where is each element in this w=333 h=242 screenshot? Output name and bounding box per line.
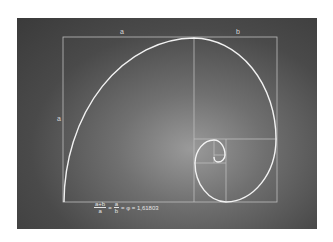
outer-golden-rectangle [63,37,277,202]
fraction-a-over-b: a b [114,201,119,214]
label-a-left: a [57,115,61,122]
label-a-top: a [120,28,124,35]
label-b-top: b [236,28,240,35]
golden-spiral-curve [64,38,276,202]
phi-value: = φ = 1,61803 [121,205,159,211]
golden-ratio-formula: a+b a = a b = φ = 1,61803 [94,201,159,214]
fraction-a-plus-b-over-a: a+b a [94,201,106,214]
golden-rectangles [63,37,277,202]
golden-spiral-figure [0,0,333,242]
